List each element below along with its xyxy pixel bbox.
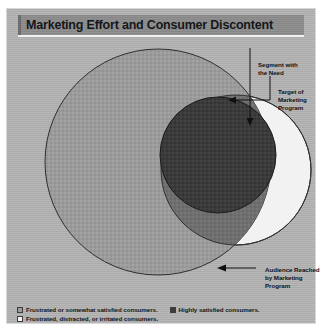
title-bar: Marketing Effort and Consumer Discontent xyxy=(18,15,304,37)
annotation-audience-line-1: Audience Reached xyxy=(265,266,320,274)
pointer-audience-reached xyxy=(217,265,256,272)
circle-target-of-program xyxy=(160,97,276,213)
annotation-target-of-program: Target of Marketing Program xyxy=(278,88,307,112)
annotation-audience-reached: Audience Reached by Marketing Program xyxy=(265,266,320,290)
legend: Frustrated or somewhat satisfied consume… xyxy=(17,306,307,324)
legend-label-light: Frustrated, distracted, or irritated con… xyxy=(26,315,158,323)
legend-label-mid: Frustrated or somewhat satisfied consume… xyxy=(26,306,158,314)
annotation-segment-with-need: Segment with the Need xyxy=(258,61,298,77)
legend-item-frustrated-or-somewhat-satisfied: Frustrated or somewhat satisfied consume… xyxy=(17,306,158,314)
annotation-target-line-1: Target of xyxy=(278,88,307,96)
legend-swatch-icon-dark xyxy=(170,307,176,313)
legend-label-dark: Highly satisfied consumers. xyxy=(179,306,260,314)
annotation-target-line-3: Program xyxy=(278,104,307,112)
legend-swatch-icon-mid xyxy=(17,307,23,313)
legend-swatch-icon-light xyxy=(17,316,23,322)
annotation-audience-line-3: Program xyxy=(265,282,320,290)
legend-row-1: Frustrated or somewhat satisfied consume… xyxy=(17,306,307,315)
annotation-need-line-1: Segment with xyxy=(258,61,298,69)
annotation-audience-line-2: by Marketing xyxy=(265,274,320,282)
legend-item-frustrated-distracted-irritated: Frustrated, distracted, or irritated con… xyxy=(17,315,158,323)
figure-root: Marketing Effort and Consumer Discontent xyxy=(0,0,324,333)
figure-plate: Marketing Effort and Consumer Discontent xyxy=(6,8,316,324)
title-bar-accent xyxy=(18,15,21,35)
legend-row-2: Frustrated, distracted, or irritated con… xyxy=(17,315,307,324)
annotation-target-line-2: Marketing xyxy=(278,96,307,104)
page-title: Marketing Effort and Consumer Discontent xyxy=(18,18,273,32)
diagram-canvas xyxy=(8,40,315,290)
annotation-need-line-2: the Need xyxy=(258,69,298,77)
venn-diagram xyxy=(8,40,315,290)
legend-item-highly-satisfied: Highly satisfied consumers. xyxy=(170,306,260,314)
